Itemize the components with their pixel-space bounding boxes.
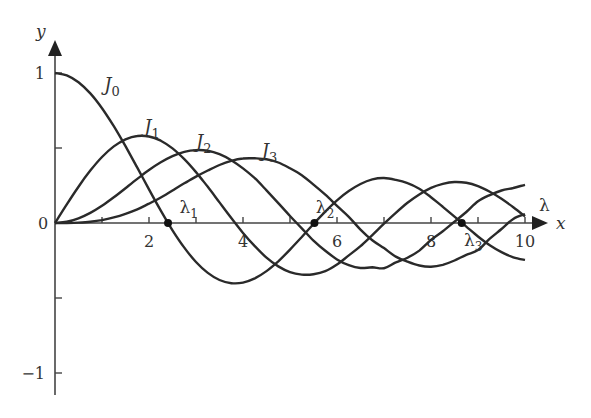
curve-label-j2: J2 xyxy=(192,131,212,156)
y-tick-label: −1 xyxy=(21,364,45,383)
zero-label-lambda: λ xyxy=(539,195,550,215)
origin-label: 0 xyxy=(38,214,48,233)
curve-j0 xyxy=(55,73,525,283)
zero-point-marker-2 xyxy=(310,219,318,227)
curve-label-j0: J0 xyxy=(100,74,120,99)
x-tick-label: 6 xyxy=(332,232,342,251)
curves xyxy=(55,73,525,283)
bessel-function-chart: 2468101−1 J0J1J2J3λ1λ2λ3λ x y 0 xyxy=(0,0,591,418)
zero-point-marker-3 xyxy=(458,219,466,227)
curve-j1 xyxy=(55,136,525,275)
x-axis-arrow-icon xyxy=(532,216,548,230)
y-tick-label: 1 xyxy=(35,64,45,83)
zero-label-3: λ3 xyxy=(464,230,482,254)
zero-label-1: λ1 xyxy=(180,197,198,221)
y-axis-arrow-icon xyxy=(48,40,62,56)
curve-label-j3: J3 xyxy=(258,140,278,165)
x-axis-label: x xyxy=(556,213,566,233)
x-tick-label: 4 xyxy=(238,232,248,251)
x-tick-label: 10 xyxy=(515,232,535,251)
y-axis-label: y xyxy=(35,21,46,41)
x-tick-label: 8 xyxy=(426,232,436,251)
axes xyxy=(48,40,548,395)
x-tick-label: 2 xyxy=(144,232,154,251)
zero-point-marker-1 xyxy=(164,219,172,227)
labels: J0J1J2J3λ1λ2λ3λ xyxy=(100,74,550,254)
